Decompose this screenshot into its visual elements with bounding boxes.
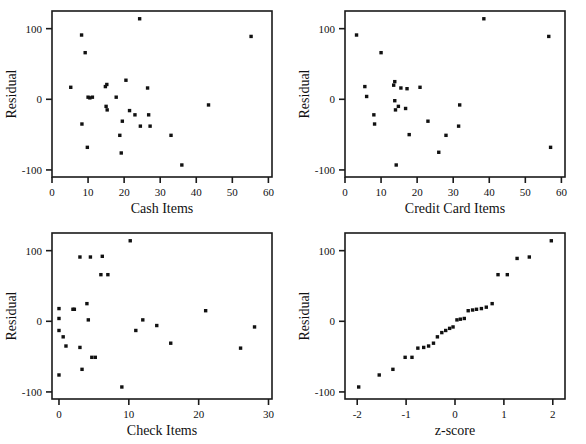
data-point: [459, 317, 462, 320]
data-point: [467, 309, 470, 312]
data-point: [83, 51, 86, 54]
data-point: [121, 119, 124, 122]
plot-canvas-credit-card-items: 0102030405060-1000100Credit Card ItemsRe…: [293, 0, 586, 222]
y-axis-label-check-items: Residual: [4, 291, 19, 340]
data-point: [451, 325, 454, 328]
data-point: [490, 302, 493, 305]
data-point: [78, 346, 81, 349]
data-point: [57, 317, 60, 320]
data-point: [64, 344, 67, 347]
data-point: [457, 124, 460, 127]
data-point: [485, 305, 488, 308]
x-tick-label-check-items-1: 10: [123, 408, 135, 420]
data-point: [471, 308, 474, 311]
data-point: [547, 35, 550, 38]
y-tick-label-cash-items-1: 0: [37, 93, 43, 105]
x-tick-label-check-items-3: 30: [263, 408, 275, 420]
data-point: [405, 87, 408, 90]
data-point: [506, 273, 509, 276]
data-point: [146, 86, 149, 89]
plot-canvas-z-score: -2-1012-1000100z-scoreResidual: [293, 222, 586, 444]
data-point: [104, 105, 107, 108]
plot-frame-check-items: [52, 233, 272, 399]
data-point: [57, 307, 60, 310]
data-point: [448, 327, 451, 330]
x-tick-label-credit-card-items-3: 30: [448, 186, 460, 198]
data-point: [432, 341, 435, 344]
data-point: [550, 239, 553, 242]
data-point: [94, 356, 97, 359]
data-point: [404, 107, 407, 110]
data-point: [148, 124, 151, 127]
data-point: [61, 335, 64, 338]
data-point: [528, 255, 531, 258]
data-point: [253, 325, 256, 328]
plot-canvas-cash-items: 0102030405060-1000100Cash ItemsResidual: [0, 0, 293, 222]
x-tick-label-cash-items-3: 30: [155, 186, 167, 198]
data-point: [357, 385, 360, 388]
data-point: [86, 95, 89, 98]
x-tick-label-cash-items-1: 10: [83, 186, 95, 198]
data-point: [480, 307, 483, 310]
data-point: [391, 368, 394, 371]
x-tick-label-cash-items-6: 60: [263, 186, 275, 198]
data-point: [138, 17, 141, 20]
y-tick-label-credit-card-items-0: -100: [315, 164, 336, 176]
y-tick-label-cash-items-0: -100: [22, 164, 43, 176]
x-tick-label-z-score-0: -2: [353, 408, 362, 420]
data-point: [418, 86, 421, 89]
data-point: [463, 317, 466, 320]
data-point: [363, 85, 366, 88]
data-point: [85, 302, 88, 305]
data-point: [155, 324, 158, 327]
data-point: [440, 331, 443, 334]
x-axis-label-cash-items: Cash Items: [131, 201, 194, 216]
data-point: [379, 51, 382, 54]
data-point: [169, 134, 172, 137]
x-tick-label-cash-items-0: 0: [49, 186, 55, 198]
data-point: [133, 113, 136, 116]
y-axis-label-cash-items: Residual: [4, 69, 19, 118]
x-tick-label-credit-card-items-0: 0: [342, 186, 348, 198]
data-point: [239, 346, 242, 349]
data-point: [496, 273, 499, 276]
data-point: [124, 79, 127, 82]
scatter-panel-credit-card-items: 0102030405060-1000100Credit Card ItemsRe…: [293, 0, 586, 222]
data-point: [114, 95, 117, 98]
data-point: [207, 103, 210, 106]
x-tick-label-credit-card-items-5: 50: [520, 186, 532, 198]
data-point: [407, 133, 410, 136]
y-tick-label-check-items-1: 0: [37, 315, 43, 327]
data-point: [355, 33, 358, 36]
y-tick-label-cash-items-2: 100: [26, 23, 43, 35]
data-point: [86, 146, 89, 149]
x-tick-label-z-score-4: 2: [550, 408, 556, 420]
plot-frame-credit-card-items: [345, 11, 565, 177]
x-tick-label-credit-card-items-1: 10: [376, 186, 388, 198]
data-point: [482, 17, 485, 20]
data-point: [422, 346, 425, 349]
y-tick-label-z-score-0: -100: [315, 386, 336, 398]
y-tick-label-z-score-1: 0: [330, 315, 336, 327]
x-tick-label-cash-items-4: 40: [191, 186, 203, 198]
data-point: [99, 273, 102, 276]
x-tick-label-cash-items-2: 20: [119, 186, 131, 198]
scatter-panel-z-score: -2-1012-1000100z-scoreResidual: [293, 222, 586, 444]
data-point: [444, 134, 447, 137]
x-tick-label-check-items-2: 20: [193, 408, 205, 420]
data-point: [120, 385, 123, 388]
x-axis-label-credit-card-items: Credit Card Items: [405, 201, 505, 216]
data-point: [120, 151, 123, 154]
data-point: [372, 113, 375, 116]
data-point: [106, 273, 109, 276]
data-point: [444, 329, 447, 332]
data-point: [147, 113, 150, 116]
data-point: [365, 95, 368, 98]
x-tick-label-credit-card-items-2: 20: [412, 186, 424, 198]
x-axis-label-check-items: Check Items: [127, 423, 197, 438]
data-point: [549, 146, 552, 149]
y-tick-label-check-items-0: -100: [22, 386, 43, 398]
y-tick-label-credit-card-items-2: 100: [319, 23, 336, 35]
residual-plot-figure: 0102030405060-1000100Cash ItemsResidual …: [0, 0, 586, 444]
data-point: [91, 95, 94, 98]
